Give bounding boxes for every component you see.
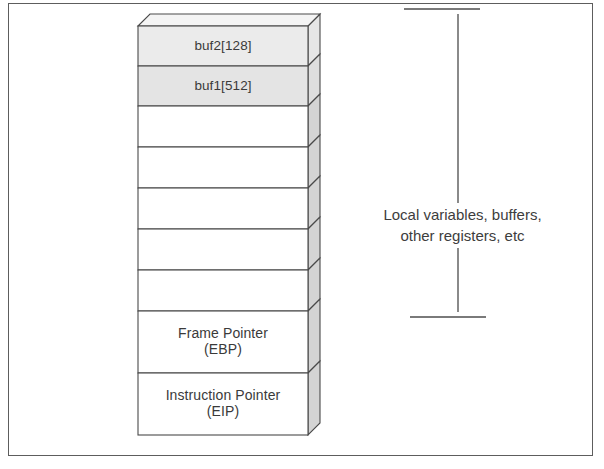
range-caption-line-0: Local variables, buffers, <box>340 205 585 226</box>
cell-front-e4 <box>138 229 308 270</box>
side-face-eip <box>308 361 320 435</box>
cell-front-e5 <box>138 270 308 311</box>
range-bracket-graphics <box>340 0 590 340</box>
cell-front-e2 <box>138 147 308 188</box>
cell-front-ebp <box>138 311 308 373</box>
stack-front-faces <box>138 26 308 435</box>
cell-front-eip <box>138 373 308 435</box>
stack-side-faces <box>308 14 320 435</box>
cell-front-buf1 <box>138 66 308 106</box>
cell-front-e3 <box>138 188 308 229</box>
stack-frame-diagram: buf2[128] buf1[512] Frame Pointer (EBP) … <box>130 3 330 443</box>
range-caption: Local variables, buffers, other register… <box>340 203 585 248</box>
stack-top-face <box>138 14 320 26</box>
local-variables-range-annotation: Local variables, buffers, other register… <box>340 0 590 340</box>
stack-block-graphics <box>130 3 330 443</box>
cell-front-e1 <box>138 106 308 147</box>
cell-front-buf2 <box>138 26 308 66</box>
range-caption-line-1: other registers, etc <box>340 226 585 247</box>
side-face-ebp <box>308 299 320 373</box>
